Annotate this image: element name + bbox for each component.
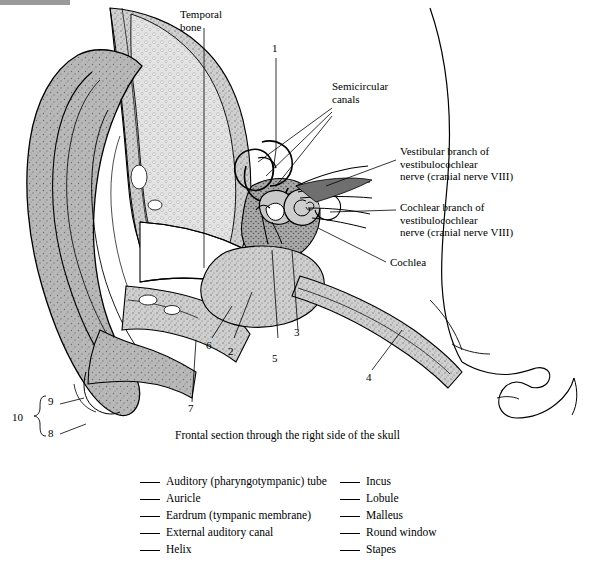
key-item-eardrum[interactable]: Eardrum (tympanic membrane) [140,509,311,521]
key-item-lobule[interactable]: Lobule [340,492,399,504]
key-label: Eardrum (tympanic membrane) [166,509,311,521]
figure-page: Temporal bone 1 Semicircular canals Vest… [0,0,609,569]
leader-number-10: 10 [12,411,23,423]
key-blank-line[interactable] [140,516,160,517]
key-item-helix[interactable]: Helix [140,543,192,555]
key-blank-line[interactable] [340,482,360,483]
key-item-stapes[interactable]: Stapes [340,543,396,555]
key-blank-line[interactable] [340,516,360,517]
label-semicircular-canals: Semicircular canals [332,80,388,105]
key-blank-line[interactable] [340,550,360,551]
key-label: Incus [366,475,391,487]
key-label: External auditory canal [166,526,273,538]
key-item-incus[interactable]: Incus [340,475,391,487]
leader-number-1: 1 [272,42,278,54]
label-vestibular-branch: Vestibular branch of vestibulocochlear n… [400,145,513,183]
key-item-round-window[interactable]: Round window [340,526,437,538]
key-label: Stapes [366,543,396,555]
key-label: Auricle [166,492,200,504]
key-blank-line[interactable] [340,499,360,500]
key-label: Auditory (pharyngotympanic) tube [166,475,327,487]
leader-number-6: 6 [206,339,212,351]
key-item-auditory-tube[interactable]: Auditory (pharyngotympanic) tube [140,475,327,487]
label-cochlear-branch: Cochlear branch of vestibulocochlear ner… [400,201,513,239]
label-temporal-bone: Temporal bone [180,8,222,33]
leader-number-8: 8 [48,427,54,439]
key-label: Round window [366,526,437,538]
key-item-auricle[interactable]: Auricle [140,492,200,504]
key-item-external-auditory-canal[interactable]: External auditory canal [140,526,273,538]
key-blank-line[interactable] [140,482,160,483]
key-label: Malleus [366,509,403,521]
key-blank-line[interactable] [140,533,160,534]
label-cochlea: Cochlea [390,256,426,269]
key-blank-line[interactable] [140,550,160,551]
leader-number-9: 9 [48,395,54,407]
key-label: Helix [166,543,192,555]
key-blank-line[interactable] [340,533,360,534]
key-blank-line[interactable] [140,499,160,500]
key-label: Lobule [366,492,399,504]
leader-number-7: 7 [188,402,194,414]
figure-caption: Frontal section through the right side o… [175,429,400,441]
key-item-malleus[interactable]: Malleus [340,509,403,521]
leader-number-4: 4 [366,371,372,383]
leader-number-3: 3 [294,326,300,338]
leader-number-5: 5 [272,352,278,364]
leader-number-2: 2 [228,345,234,357]
